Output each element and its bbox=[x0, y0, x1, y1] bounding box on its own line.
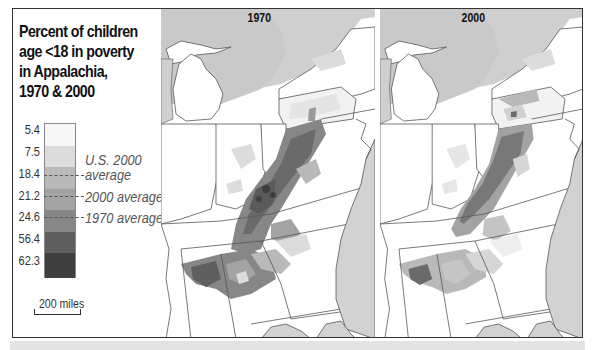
legend-swatch-1 bbox=[45, 146, 75, 167]
map-2000: 2000 bbox=[380, 9, 583, 338]
1970-average-label: 1970 average bbox=[85, 210, 163, 225]
legend-swatch-3 bbox=[45, 189, 75, 210]
map-2000-year-label: 2000 bbox=[462, 11, 485, 25]
us-2000-average-label-1: U.S. 2000 bbox=[85, 152, 142, 167]
map-1970-graphic bbox=[161, 9, 375, 338]
title-line-3: in Appalachia, bbox=[19, 61, 148, 81]
1970-average-line bbox=[44, 217, 84, 218]
title-line-2: age <18 in poverty bbox=[19, 41, 148, 61]
figure-frame: Percent of children age <18 in poverty i… bbox=[12, 8, 583, 338]
legend-swatch-0 bbox=[45, 124, 75, 146]
legend-break-6: 62.3 bbox=[15, 253, 41, 268]
legend-break-0: 5.4 bbox=[15, 122, 41, 137]
legend-color-ramp bbox=[44, 123, 76, 278]
figure-title: Percent of children age <18 in poverty i… bbox=[19, 21, 148, 101]
us-2000-average-line bbox=[44, 175, 84, 176]
map-2000-graphic bbox=[380, 9, 583, 338]
legend-swatch-5 bbox=[45, 232, 75, 253]
title-line-4: 1970 & 2000 bbox=[19, 81, 148, 101]
legend-break-1: 7.5 bbox=[15, 144, 41, 159]
us-2000-average-label-2: average bbox=[85, 167, 131, 182]
scale-label: 200 miles bbox=[39, 297, 84, 311]
legend-swatch-6 bbox=[45, 253, 75, 278]
legend-break-4: 24.6 bbox=[15, 209, 41, 224]
map-1970-year-label: 1970 bbox=[248, 11, 271, 25]
legend-swatch-2 bbox=[45, 167, 75, 189]
2000-average-line bbox=[44, 196, 84, 197]
legend-break-2: 18.4 bbox=[15, 166, 41, 181]
title-line-1: Percent of children bbox=[19, 21, 148, 41]
legend-swatch-4 bbox=[45, 210, 75, 232]
2000-average-label: 2000 average bbox=[85, 189, 163, 204]
bottom-strip bbox=[10, 341, 585, 350]
legend-break-5: 56.4 bbox=[15, 231, 41, 246]
legend-break-3: 21.2 bbox=[15, 188, 41, 203]
map-1970: 1970 bbox=[161, 9, 375, 338]
